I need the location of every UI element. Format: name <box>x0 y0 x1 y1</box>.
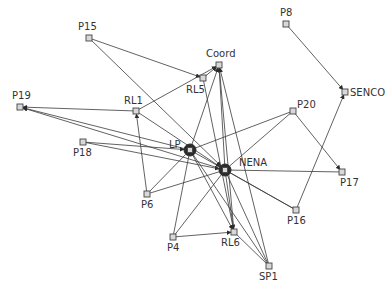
node-label-P17: P17 <box>340 177 359 188</box>
edge-P18-NENA <box>83 142 219 169</box>
node-P17[interactable] <box>339 169 345 175</box>
node-label-LP: LP <box>169 139 181 150</box>
node-label-P20: P20 <box>297 99 316 110</box>
node-label-P4: P4 <box>167 242 179 253</box>
node-P16[interactable] <box>293 207 299 213</box>
node-label-SP1: SP1 <box>259 271 278 282</box>
node-P8[interactable] <box>283 21 289 27</box>
edge-NENA-P16 <box>225 170 293 209</box>
node-RL5[interactable] <box>200 75 206 81</box>
edge-RL6-Coord <box>219 68 234 232</box>
node-layer <box>17 21 348 269</box>
node-label-P15: P15 <box>78 21 97 32</box>
node-label-RL5: RL5 <box>186 84 205 95</box>
node-label-P18: P18 <box>73 147 92 158</box>
node-label-P19: P19 <box>12 90 31 101</box>
node-RL1[interactable] <box>133 108 139 114</box>
edge-P15-NENA <box>89 38 221 166</box>
edge-layer <box>23 24 344 266</box>
node-P6[interactable] <box>144 191 150 197</box>
node-Coord[interactable] <box>216 62 222 68</box>
network-diagram: P15P8CoordRL5SENCOP19RL1P20P18LPNENAP6P1… <box>0 0 392 293</box>
node-label-SENCO: SENCO <box>350 87 385 98</box>
node-SENCO[interactable] <box>342 89 348 95</box>
edge-NENA-P17 <box>225 170 339 172</box>
edge-P16-SENCO <box>296 95 344 210</box>
node-SP1[interactable] <box>266 263 272 269</box>
edge-P4-LP <box>173 156 189 237</box>
node-RL6[interactable] <box>231 229 237 235</box>
node-label-RL1: RL1 <box>124 95 143 106</box>
edge-RL1-P19 <box>23 107 136 111</box>
edge-NENA-P19 <box>23 108 225 170</box>
edge-P15-RL5 <box>89 38 200 77</box>
edge-P20-LP <box>196 111 293 148</box>
node-marker-NENA <box>223 168 228 173</box>
node-marker-LP <box>188 148 193 153</box>
node-P4[interactable] <box>170 234 176 240</box>
node-P18[interactable] <box>80 139 86 145</box>
node-label-NENA: NENA <box>239 157 267 168</box>
node-label-P16: P16 <box>287 215 306 226</box>
node-label-Coord: Coord <box>206 48 236 59</box>
node-P20[interactable] <box>290 108 296 114</box>
node-label-RL6: RL6 <box>221 237 240 248</box>
node-label-P8: P8 <box>280 7 292 18</box>
edge-P8-SENCO <box>286 24 343 90</box>
node-P15[interactable] <box>86 35 92 41</box>
node-P19[interactable] <box>17 104 23 110</box>
node-label-P6: P6 <box>141 199 153 210</box>
